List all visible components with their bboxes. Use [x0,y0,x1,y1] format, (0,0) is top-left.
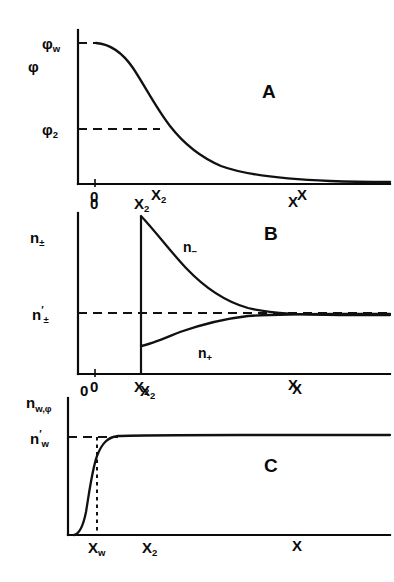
panel-b-curve-label-n-minus: n− [183,239,198,257]
panel-b-x-tick-zero: 0 [90,378,98,395]
panel-c-x-tick-x-top: X [292,380,302,397]
panel-c-letter: C [264,455,278,476]
panel-c-y-axis-label: nw,φ [26,394,52,414]
panel-b-x-tick-zero-top: 0 [90,195,98,212]
panel-b-y-tick-n-prime: n′± [32,305,49,325]
panel-b: n± n′± n− n+ 0 X2 X 0 X2 X B [30,193,390,397]
panel-a-y-axis-label: φ [28,58,39,75]
panel-a-letter: A [262,81,276,102]
panel-a-x-tick-x2: X2 [151,186,166,205]
panel-c-x-tick-x2: X2 [142,539,157,558]
panel-a-x-tick-x: X [297,186,307,203]
three-panel-figure: φ φw φ2 0 X2 X A n± n′± n− n+ 0 X2 [0,0,394,582]
panel-c-x-tick-x: X [292,537,302,554]
panel-b-letter: B [264,223,278,244]
panel-a: φ φw φ2 0 X2 X A [28,30,390,205]
panel-c-density-curve [74,435,390,535]
panel-c-x-tick-x2-top: X2 [140,382,155,401]
panel-b-n-plus-curve [141,314,390,346]
panel-c-x-tick-zero-top: 0 [80,382,88,399]
panel-a-y-tick-phi-w: φw [42,35,61,54]
panel-a-potential-curve [96,43,390,182]
panel-c: nw,φ n′w 0 X2 X Xw X2 X C [26,380,390,558]
panel-a-y-tick-phi-2: φ2 [42,121,58,140]
panel-b-curve-label-n-plus: n+ [198,345,213,363]
panel-c-x-tick-xw: Xw [88,539,106,558]
panel-b-x-tick-x-top: X [288,193,298,210]
panel-b-y-axis-label: n± [30,229,44,248]
panel-b-x-tick-x2-top: X2 [134,195,149,214]
panel-c-y-tick-n-prime-w: n′w [30,429,50,449]
